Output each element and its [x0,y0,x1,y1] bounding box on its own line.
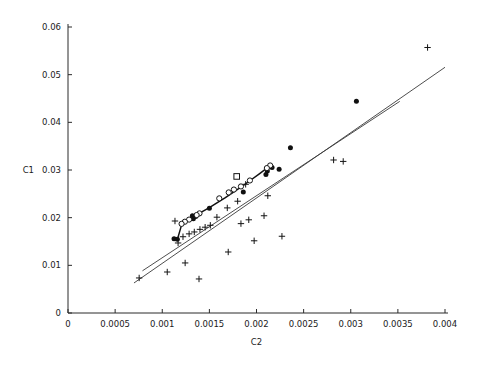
connected-data-path [173,165,272,240]
axes [68,24,448,313]
marker-circle [264,165,269,170]
marker-dot [175,237,180,242]
marker-circle [247,178,252,183]
marker-circle [226,190,231,195]
marker-dot [288,145,293,150]
lower-fit-line [134,67,445,283]
y-tick-labels: 00.010.020.030.040.050.06 [42,22,61,318]
y-tick-label: 0 [56,308,61,318]
x-tick-label: 0.004 [433,319,457,329]
marker-square [234,174,240,180]
marker-circle [238,184,243,189]
y-tick-label: 0.02 [42,213,61,223]
y-tick-label: 0.04 [42,117,61,127]
tick-marks [68,27,445,313]
marker-dot [241,189,246,194]
x-tick-label: 0.0015 [195,319,225,329]
y-tick-label: 0.01 [42,260,61,270]
x-tick-label: 0.0005 [100,319,130,329]
marker-circle [179,221,184,226]
series-square-marker [234,174,240,180]
marker-circle [231,187,236,192]
marker-dot [207,206,212,211]
x-tick-label: 0.0025 [289,319,319,329]
x-tick-label: 0 [65,319,70,329]
x-tick-labels: 00.00050.0010.00150.0020.00250.0030.0035… [65,319,457,329]
x-tick-label: 0.003 [339,319,363,329]
chart-canvas: 00.00050.0010.00150.0020.00250.0030.0035… [0,0,481,386]
y-tick-label: 0.06 [42,22,61,32]
marker-dot [354,99,359,104]
marker-circle [217,196,222,201]
x-tick-label: 0.001 [150,319,174,329]
x-tick-label: 0.0035 [383,319,413,329]
upper-fit-line [142,101,399,270]
fit-lines [134,67,445,283]
x-tick-label: 0.002 [244,319,268,329]
marker-dot [277,167,282,172]
x-axis-title: C2 [251,337,262,347]
y-tick-label: 0.03 [42,165,61,175]
y-axis-title: C1 [23,165,34,175]
marker-circle [194,212,199,217]
scatter-plot-figure: 00.00050.0010.00150.0020.00250.0030.0035… [0,0,481,386]
y-tick-label: 0.05 [42,70,61,80]
